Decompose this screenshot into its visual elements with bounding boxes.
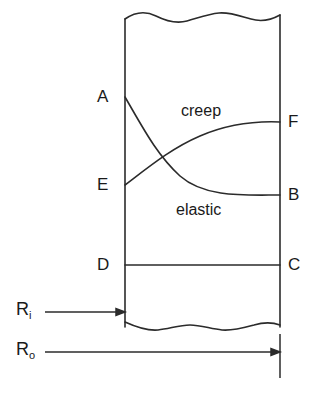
creep-elastic-stress-diagram: A E D F B C creep elastic Ri Ro: [0, 0, 320, 393]
creep-curve: [125, 122, 280, 185]
diagram-canvas: [0, 0, 320, 393]
outer-radius-arrow: [45, 349, 280, 356]
outer-radius-label: Ro: [16, 340, 35, 358]
outer-radius-subscript: o: [29, 349, 35, 361]
vertex-label-e: E: [97, 176, 108, 193]
vertex-label-c: C: [288, 256, 300, 273]
top-break-line: [125, 13, 280, 22]
bottom-break-line: [125, 322, 280, 330]
outer-radius-symbol: R: [16, 339, 29, 359]
vertex-label-d: D: [97, 256, 109, 273]
elastic-curve-label: elastic: [176, 202, 221, 218]
vertex-label-f: F: [288, 113, 298, 130]
creep-curve-label: creep: [181, 103, 221, 119]
inner-radius-arrow: [45, 309, 125, 316]
inner-radius-symbol: R: [16, 299, 29, 319]
vertex-label-a: A: [97, 88, 108, 105]
vertex-label-b: B: [288, 186, 299, 203]
inner-radius-label: Ri: [16, 300, 31, 318]
